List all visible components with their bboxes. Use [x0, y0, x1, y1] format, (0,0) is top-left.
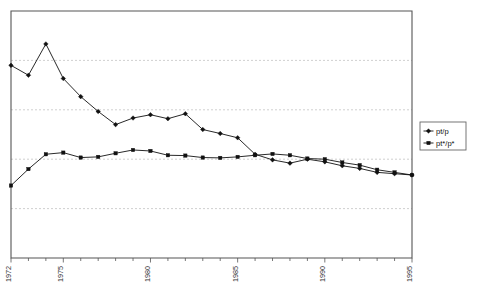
data-point — [184, 154, 187, 157]
data-point — [44, 42, 49, 47]
chart-figure: 197219751980198519901995 pt/ppt*/p* — [0, 0, 477, 295]
data-point — [236, 155, 239, 158]
data-point — [271, 152, 274, 155]
x-tick-label-1995: 1995 — [405, 266, 414, 282]
x-tick-label-1972: 1972 — [4, 266, 13, 282]
data-point — [410, 173, 413, 176]
data-point — [9, 63, 14, 68]
x-axis-ticks — [11, 258, 412, 263]
data-point — [96, 155, 99, 158]
data-point — [166, 154, 169, 157]
data-point — [323, 158, 326, 161]
data-point — [218, 131, 223, 136]
data-point — [79, 156, 82, 159]
series-line — [11, 150, 412, 186]
data-point — [427, 141, 430, 144]
chart-legend[interactable]: pt/ppt*/p* — [420, 122, 466, 150]
data-point — [148, 112, 153, 117]
data-point — [114, 152, 117, 155]
plot-frame — [11, 11, 412, 258]
x-tick-label-1980: 1980 — [143, 266, 152, 282]
data-point — [9, 184, 12, 187]
x-tick-label-1985: 1985 — [231, 266, 240, 282]
data-point — [201, 156, 204, 159]
data-point — [131, 116, 136, 121]
data-point — [253, 154, 256, 157]
plot-border — [11, 11, 412, 258]
data-series — [9, 42, 415, 188]
x-tick-label-1975: 1975 — [56, 266, 65, 282]
data-point — [375, 168, 378, 171]
data-point — [219, 156, 222, 159]
data-point — [288, 161, 293, 166]
data-point — [166, 116, 171, 121]
data-point — [393, 171, 396, 174]
data-point — [288, 154, 291, 157]
data-point — [358, 163, 361, 166]
data-point — [270, 158, 275, 163]
data-point — [341, 161, 344, 164]
legend-label-1[interactable]: pt/p — [436, 127, 449, 136]
line-chart: 197219751980198519901995 pt/ppt*/p* — [0, 0, 477, 295]
data-point — [306, 157, 309, 160]
data-point — [44, 153, 47, 156]
legend-label-2[interactable]: pt*/p* — [436, 139, 455, 148]
x-axis-labels: 197219751980198519901995 — [4, 266, 414, 282]
data-point — [149, 149, 152, 152]
gridlines — [11, 60, 412, 208]
data-point — [62, 151, 65, 154]
data-point — [26, 73, 31, 78]
x-tick-label-1990: 1990 — [318, 266, 327, 282]
data-point — [27, 167, 30, 170]
data-point — [131, 148, 134, 151]
